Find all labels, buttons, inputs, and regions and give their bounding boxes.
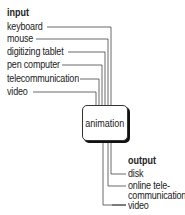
input-item-mouse: mouse [7, 33, 33, 44]
input-item-keyboard: keyboard [7, 21, 43, 32]
input-item-digitizing-tablet: digitizing tablet [7, 46, 63, 57]
input-item-pen-computer: pen computer [7, 59, 60, 70]
input-heading: input [7, 7, 29, 18]
output-item-disk: disk [128, 168, 143, 179]
wire-video-input [33, 92, 96, 105]
input-item-video: video [7, 86, 28, 97]
animation-label: animation [85, 118, 124, 129]
input-item-telecommunication: telecommunication [7, 73, 79, 84]
output-item-video: video [128, 200, 149, 211]
animation-box: animation [82, 105, 128, 141]
output-heading: output [128, 155, 156, 166]
wire-disk [111, 140, 126, 174]
